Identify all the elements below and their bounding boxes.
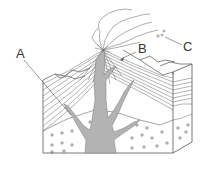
label-c: C	[183, 40, 192, 53]
leader-line-a	[24, 60, 71, 115]
side-strata	[173, 78, 192, 120]
volcano-diagram	[0, 0, 207, 184]
label-b: B	[138, 42, 147, 55]
magma-chamber	[64, 51, 140, 153]
label-a: A	[16, 47, 25, 60]
ash-particles	[157, 30, 165, 37]
eruption-plume	[92, 9, 158, 52]
leader-line-b	[123, 52, 136, 58]
leader-line-c	[165, 37, 182, 45]
